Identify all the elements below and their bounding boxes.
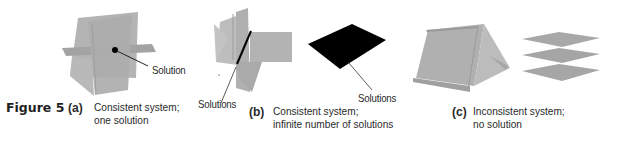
panel-b-caption-line2: infinite number of solutions xyxy=(273,118,393,131)
panel-c-tent-planes-illustration xyxy=(413,24,510,92)
panel-a-letter: (a) xyxy=(68,101,83,115)
figure-number: Figure 5 xyxy=(6,100,64,115)
panel-b-line-intersection-illustration xyxy=(214,8,292,103)
panel-a-planes-illustration xyxy=(62,12,156,96)
panel-b-coincident-planes-illustration xyxy=(308,24,386,90)
panel-b-caption-line1: Consistent system; xyxy=(273,105,358,118)
figure-5: Solution Solutions Solutions Figure 5 (a… xyxy=(0,0,627,144)
panel-c-caption-line1: Inconsistent system; xyxy=(473,105,565,118)
panel-b-letter: (b) xyxy=(249,105,264,119)
panel-c-caption-line2: no solution xyxy=(473,118,522,131)
panel-a-caption-line2: one solution xyxy=(94,114,149,127)
panel-a-caption-line1: Consistent system; xyxy=(94,101,179,114)
panel-b-solutions-label-right: Solutions xyxy=(358,92,396,105)
panel-a-solution-label: Solution xyxy=(152,64,186,77)
panel-c-parallel-planes-illustration xyxy=(522,32,600,81)
panel-c-letter: (c) xyxy=(452,105,467,119)
panel-b-solutions-label-left: Solutions xyxy=(198,98,236,111)
